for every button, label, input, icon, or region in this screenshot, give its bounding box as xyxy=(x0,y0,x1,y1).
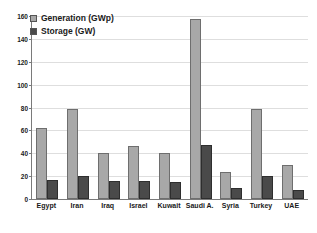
y-tick-label: 60 xyxy=(2,127,28,134)
bar-storage xyxy=(78,176,89,199)
x-axis-label: Turkey xyxy=(246,202,277,209)
bar-storage xyxy=(170,182,181,199)
bar-generation xyxy=(159,153,170,199)
bar-generation xyxy=(36,128,47,199)
bar-group xyxy=(155,16,186,199)
y-tick-label: 140 xyxy=(2,35,28,42)
y-tick-label: 100 xyxy=(2,81,28,88)
x-axis-label: Iran xyxy=(62,202,93,209)
legend-label-generation: Generation (GWp) xyxy=(41,13,114,23)
bar-storage xyxy=(231,188,242,199)
bar-group xyxy=(277,16,308,199)
bar-group xyxy=(185,16,216,199)
legend-item-storage: Storage (GW) xyxy=(30,25,114,37)
bar-group xyxy=(32,16,63,199)
legend-swatch-generation xyxy=(30,15,37,22)
x-axis-label: Kuwait xyxy=(154,202,185,209)
bar-generation xyxy=(220,172,231,199)
x-axis-labels: EgyptIranIraqIsraelKuwaitSaudi A.SyriaTu… xyxy=(31,202,307,209)
bar-storage xyxy=(201,145,212,199)
x-axis-label: Syria xyxy=(215,202,246,209)
bar-storage xyxy=(293,190,304,199)
bar-generation xyxy=(67,109,78,199)
bar-groups xyxy=(32,16,308,199)
legend-label-storage: Storage (GW) xyxy=(41,26,95,36)
bar-generation xyxy=(98,153,109,199)
x-axis-label: Saudi A. xyxy=(184,202,215,209)
bar-group xyxy=(93,16,124,199)
x-axis-label: UAE xyxy=(276,202,307,209)
bar-generation xyxy=(282,165,293,199)
bar-group xyxy=(216,16,247,199)
bar-generation xyxy=(251,109,262,199)
bar-group xyxy=(63,16,94,199)
bar-storage xyxy=(109,181,120,199)
y-tick-mark xyxy=(29,199,32,200)
bar-chart: Generation (GWp) Storage (GW) 1601401201… xyxy=(0,0,317,233)
y-tick-label: 80 xyxy=(2,104,28,111)
y-tick-label: 40 xyxy=(2,150,28,157)
x-axis-label: Egypt xyxy=(31,202,62,209)
x-axis-label: Iraq xyxy=(92,202,123,209)
legend-item-generation: Generation (GWp) xyxy=(30,12,114,24)
chart-legend: Generation (GWp) Storage (GW) xyxy=(30,12,114,38)
y-tick-label: 160 xyxy=(2,13,28,20)
bar-generation xyxy=(190,19,201,199)
bar-storage xyxy=(262,176,273,199)
bar-generation xyxy=(128,146,139,199)
bar-group xyxy=(124,16,155,199)
y-tick-label: 120 xyxy=(2,58,28,65)
y-tick-label: 20 xyxy=(2,173,28,180)
bar-storage xyxy=(47,180,58,199)
y-tick-label: 0 xyxy=(2,196,28,203)
bar-storage xyxy=(139,181,150,199)
bar-group xyxy=(247,16,278,199)
plot-area: 160140120100806040200 xyxy=(31,16,308,200)
legend-swatch-storage xyxy=(30,28,37,35)
x-axis-label: Israel xyxy=(123,202,154,209)
